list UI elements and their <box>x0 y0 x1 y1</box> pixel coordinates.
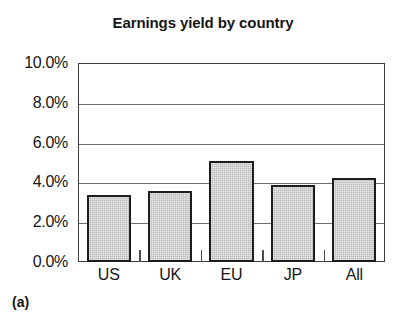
bar-jp[interactable] <box>271 185 315 262</box>
gridline-6.0% <box>79 144 384 145</box>
y-tick-label: 0.0% <box>33 253 68 271</box>
bar-uk[interactable] <box>148 191 192 262</box>
y-tick-label: 6.0% <box>33 134 68 152</box>
chart-title: Earnings yield by country <box>0 14 406 31</box>
y-tick-label: 2.0% <box>33 213 68 231</box>
y-tick-label: 10.0% <box>24 54 68 72</box>
x-tick-label-all: All <box>346 266 363 284</box>
x-tick-label-eu: EU <box>221 266 243 284</box>
bar-all[interactable] <box>332 178 376 262</box>
x-tick-label-us: US <box>98 266 120 284</box>
y-axis: 0.0%2.0%4.0%6.0%8.0%10.0% <box>0 63 72 262</box>
subfigure-caption: (a) <box>12 294 29 310</box>
y-tick-label: 4.0% <box>33 173 68 191</box>
bar-us[interactable] <box>87 195 131 262</box>
x-tick-label-jp: JP <box>284 266 302 284</box>
gridline-8.0% <box>79 104 384 105</box>
y-tick-label: 8.0% <box>33 94 68 112</box>
bar-eu[interactable] <box>209 161 253 263</box>
figure-container: Earnings yield by country 0.0%2.0%4.0%6.… <box>0 0 406 328</box>
x-axis: USUKEUJPAll <box>78 266 385 290</box>
x-tick-label-uk: UK <box>159 266 181 284</box>
